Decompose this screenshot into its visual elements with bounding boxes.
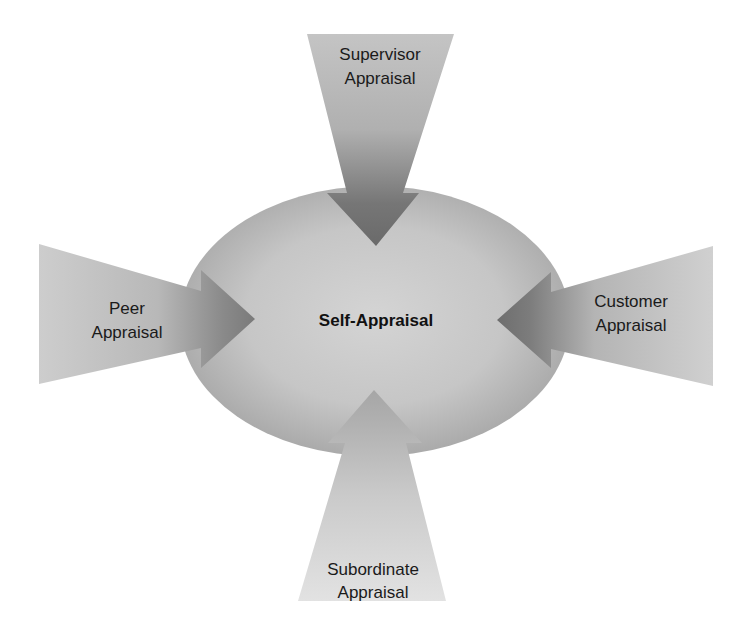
supervisor-label-line2: Appraisal (345, 69, 416, 88)
appraisal-diagram: Supervisor Appraisal Peer Appraisal Cust… (0, 0, 744, 631)
peer-label-line1: Peer (109, 299, 145, 318)
subordinate-label-line2: Appraisal (338, 583, 409, 602)
supervisor-label-line1: Supervisor (339, 45, 421, 64)
customer-label-line1: Customer (594, 292, 668, 311)
self-appraisal-label: Self-Appraisal (319, 311, 433, 330)
subordinate-label-line1: Subordinate (327, 560, 419, 579)
peer-label-line2: Appraisal (92, 323, 163, 342)
customer-label-line2: Appraisal (596, 316, 667, 335)
